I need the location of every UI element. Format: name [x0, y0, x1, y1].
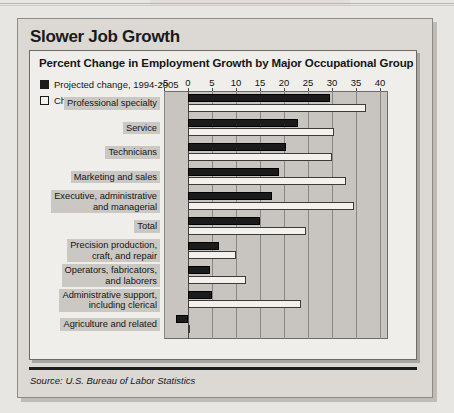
category-label: Service — [123, 122, 160, 135]
bar-group — [164, 216, 388, 241]
x-tick-label: 15 — [255, 77, 266, 88]
category-label: Executive, administrativeand managerial — [51, 190, 160, 213]
bar-group — [164, 93, 388, 118]
source-note: Source: U.S. Bureau of Labor Statistics — [30, 375, 195, 386]
bar — [188, 217, 260, 225]
bar-group — [164, 314, 388, 339]
page-top-rule-secondary — [0, 5, 454, 6]
category-axis-labels: Professional specialtyServiceTechnicians… — [30, 91, 164, 365]
legend-swatch-projected — [40, 80, 49, 89]
category-label: Agriculture and related — [60, 318, 160, 331]
x-tick-label: 20 — [279, 77, 290, 88]
bar — [188, 192, 272, 200]
category-label: Technicians — [105, 146, 160, 159]
x-tick-label: -5 — [160, 77, 168, 88]
category-label: Administrative support,including clerica… — [59, 289, 160, 312]
bar — [188, 227, 306, 235]
x-tick-label: 30 — [327, 77, 338, 88]
category-label: Operators, fabricators,and laborers — [62, 264, 161, 287]
bar — [188, 291, 212, 299]
chart-panel: Percent Change in Employment Growth by M… — [29, 50, 417, 360]
plot-area: -50510152025303540 — [164, 77, 388, 351]
bar — [188, 202, 354, 210]
bar-group — [164, 142, 388, 167]
x-tick-label: 35 — [351, 77, 362, 88]
x-tick-label: 10 — [231, 77, 242, 88]
x-tick-label: 5 — [209, 77, 214, 88]
bar — [188, 177, 346, 185]
category-label: Precision production,craft, and repair — [67, 239, 160, 262]
bar — [188, 104, 366, 112]
page-top-rule — [0, 3, 454, 4]
bar-group — [164, 290, 388, 315]
legend-item-projected: Projected change, 1994-2005 — [40, 77, 179, 91]
x-tick-label: 40 — [375, 77, 386, 88]
figure-container: Slower Job Growth Percent Change in Empl… — [17, 18, 433, 398]
bar — [188, 128, 334, 136]
chart-title: Percent Change in Employment Growth by M… — [39, 57, 414, 69]
bar-series-group — [164, 91, 388, 339]
bar — [188, 168, 279, 176]
bar — [188, 266, 210, 274]
category-label: Professional specialty — [64, 97, 160, 110]
bar-group — [164, 167, 388, 192]
bar-group — [164, 265, 388, 290]
bar — [188, 276, 246, 284]
bar — [188, 143, 286, 151]
category-label: Total — [134, 220, 160, 233]
bar — [188, 300, 301, 308]
source-divider-rule — [29, 367, 417, 370]
bar — [188, 119, 298, 127]
bar — [188, 153, 332, 161]
bar — [188, 94, 330, 102]
bar — [188, 325, 190, 333]
bar-group — [164, 118, 388, 143]
bar — [188, 251, 236, 259]
figure-title: Slower Job Growth — [30, 27, 180, 47]
bar-group — [164, 241, 388, 266]
x-tick-label: 0 — [185, 77, 190, 88]
bar — [188, 242, 219, 250]
x-axis-ticks: -50510152025303540 — [164, 77, 388, 91]
bar-group — [164, 191, 388, 216]
bar — [176, 315, 188, 323]
category-label: Marketing and sales — [71, 171, 160, 184]
x-tick-label: 25 — [303, 77, 314, 88]
